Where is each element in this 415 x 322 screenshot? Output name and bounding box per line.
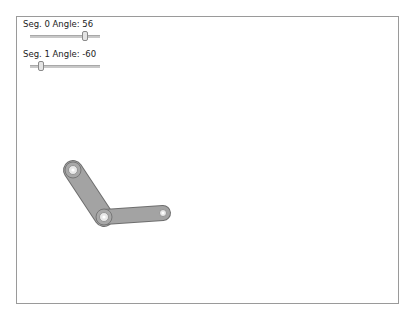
segment-1: [104, 213, 163, 217]
end-effector: [160, 210, 167, 217]
robot-arm: [0, 0, 415, 322]
joint-0: [65, 162, 81, 178]
joint-1: [96, 209, 112, 225]
